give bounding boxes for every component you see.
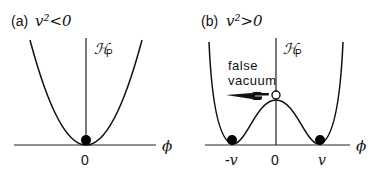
panel-a-y-sub: P — [106, 48, 113, 59]
panel-a-condition: v²<0 — [35, 12, 72, 30]
panel-a-label: (a) — [11, 13, 28, 29]
false-vacuum-label-line2: vacuum — [228, 73, 277, 88]
panel-b-condition: v²>0 — [226, 12, 263, 30]
panel-b-x-label: ϕ — [356, 137, 366, 155]
panel-b-false-vacuum-ball — [272, 91, 280, 99]
panel-a-tick-0: 0 — [81, 152, 89, 168]
panel-b-vacuum-ball-left — [227, 135, 237, 145]
panel-a-x-label: ϕ — [162, 137, 172, 155]
panel-b-y-sub: P — [295, 48, 302, 59]
pointing-hand-icon — [226, 92, 269, 100]
panel-b-tick-v: v — [318, 152, 326, 168]
panel-a-vacuum-ball — [81, 135, 91, 145]
higgs-potential-diagram: (a) v²<0 ℋ P ϕ 0 (b) v²>0 ℋ P ϕ -v 0 v f… — [0, 0, 373, 171]
panel-b-vacuum-ball-right — [315, 135, 325, 145]
panel-b: (b) v²>0 ℋ P ϕ -v 0 v false vacuum — [201, 12, 366, 168]
panel-b-tick-0: 0 — [271, 152, 279, 168]
panel-b-label: (b) — [201, 13, 218, 29]
panel-a: (a) v²<0 ℋ P ϕ 0 — [11, 12, 172, 168]
panel-b-tick-neg-v: -v — [225, 152, 238, 168]
false-vacuum-label-line1: false — [228, 58, 258, 73]
